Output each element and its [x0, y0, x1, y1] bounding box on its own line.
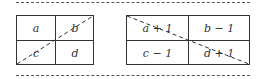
left-diagonal-dashed-line — [17, 16, 93, 64]
bottom-dashed-line — [16, 75, 250, 76]
left-table: a b c d — [16, 15, 94, 65]
top-dashed-line — [16, 2, 250, 3]
right-table: a + 1 b − 1 c − 1 d + 1 — [126, 15, 250, 65]
right-diagonal-dashed-line — [127, 16, 249, 64]
